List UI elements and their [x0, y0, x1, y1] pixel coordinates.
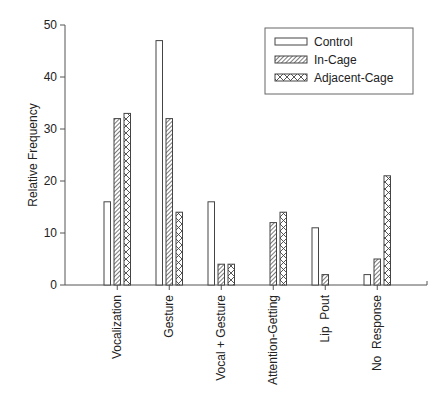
bar-chart: 01020304050 VocalizationGestureVocal + G…: [0, 0, 448, 401]
y-tick-label: 30: [44, 122, 58, 136]
bar-in-cage-3: [270, 223, 277, 285]
bar-control-4: [312, 228, 319, 285]
y-tick-label: 20: [44, 174, 58, 188]
legend-swatch-0: [275, 38, 307, 45]
bar-in-cage-0: [114, 119, 121, 285]
y-tick-label: 50: [44, 18, 58, 32]
bar-in-cage-4: [322, 275, 329, 285]
y-tick-label: 40: [44, 70, 58, 84]
x-tick-label: Vocalization: [110, 295, 124, 359]
bar-adjacent-cage-2: [228, 264, 235, 285]
bar-in-cage-2: [218, 264, 225, 285]
bar-in-cage-5: [374, 259, 381, 285]
y-tick-label: 10: [44, 226, 58, 240]
x-tick-label: No Response: [370, 295, 384, 371]
x-tick-label: Lip Pout: [318, 294, 332, 342]
legend: ControlIn-CageAdjacent-Cage: [265, 28, 413, 94]
bar-adjacent-cage-0: [124, 113, 131, 285]
x-tick-label: Gesture: [162, 295, 176, 338]
bar-control-5: [364, 275, 371, 285]
x-tick-label: Attention-Getting: [266, 295, 280, 385]
y-axis: 01020304050: [44, 18, 65, 292]
x-axis: VocalizationGestureVocal + GestureAttent…: [65, 281, 427, 385]
bar-adjacent-cage-3: [280, 212, 287, 285]
legend-label-0: Control: [314, 35, 353, 49]
x-tick-label: Vocal + Gesture: [214, 295, 228, 381]
legend-swatch-1: [275, 56, 307, 63]
legend-label-1: In-Cage: [314, 53, 357, 67]
y-axis-label: Relative Frequency: [26, 103, 40, 206]
bar-in-cage-1: [166, 119, 173, 285]
y-tick-label: 0: [50, 278, 57, 292]
bar-control-0: [104, 202, 111, 285]
bar-control-1: [156, 41, 163, 285]
bar-adjacent-cage-5: [384, 176, 391, 285]
legend-swatch-2: [275, 74, 307, 81]
bar-adjacent-cage-1: [176, 212, 183, 285]
legend-label-2: Adjacent-Cage: [314, 71, 394, 85]
bar-control-2: [208, 202, 215, 285]
